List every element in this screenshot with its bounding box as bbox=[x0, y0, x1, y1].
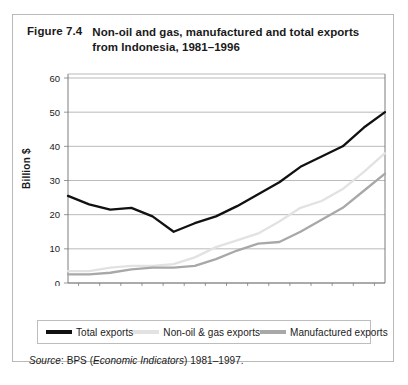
y-tick-label: 30 bbox=[49, 175, 60, 186]
y-tick-label: 10 bbox=[49, 243, 60, 254]
y-tick-label: 0 bbox=[55, 278, 60, 287]
legend-item-nonoil-gas-exports: Non-oil & gas exports bbox=[133, 327, 260, 338]
chart-legend: Total exports Non-oil & gas exports Manu… bbox=[37, 320, 371, 344]
series-line-manufactured-exports bbox=[68, 174, 385, 275]
source-colon: : BPS ( bbox=[61, 355, 93, 366]
line-chart: 0102030405060198119821983198419851986198… bbox=[13, 61, 395, 286]
line-swatch-nonoil-icon bbox=[133, 330, 159, 333]
y-tick-label: 60 bbox=[49, 73, 60, 84]
figure-title-row: Figure 7.4 Non-oil and gas, manufactured… bbox=[27, 25, 379, 54]
series-line-total-exports bbox=[68, 112, 385, 232]
source-italic-title: Economic Indicators bbox=[93, 355, 184, 366]
chart-area: Billion $ 010203040506019811982198319841… bbox=[13, 61, 395, 286]
source-suffix: ) 1981–1997. bbox=[184, 355, 244, 366]
legend-label-manufactured-exports: Manufactured exports bbox=[290, 327, 388, 338]
legend-item-manufactured-exports: Manufactured exports bbox=[260, 327, 388, 338]
y-tick-label: 50 bbox=[49, 107, 60, 118]
page-title: Non-oil and gas, manufactured and total … bbox=[92, 25, 379, 54]
line-swatch-total-icon bbox=[46, 330, 72, 333]
figure-container: Figure 7.4 Non-oil and gas, manufactured… bbox=[12, 14, 394, 362]
source-prefix: Source bbox=[29, 355, 61, 366]
legend-item-total-exports: Total exports bbox=[46, 327, 133, 338]
y-tick-label: 20 bbox=[49, 209, 60, 220]
legend-label-nonoil-gas-exports: Non-oil & gas exports bbox=[163, 327, 260, 338]
legend-label-total-exports: Total exports bbox=[76, 327, 133, 338]
y-tick-label: 40 bbox=[49, 141, 60, 152]
source-note: Source: BPS (Economic Indicators) 1981–1… bbox=[29, 355, 244, 366]
y-axis-label: Billion $ bbox=[21, 148, 32, 189]
figure-number: Figure 7.4 bbox=[27, 25, 82, 37]
line-swatch-manufactured-icon bbox=[260, 330, 286, 333]
